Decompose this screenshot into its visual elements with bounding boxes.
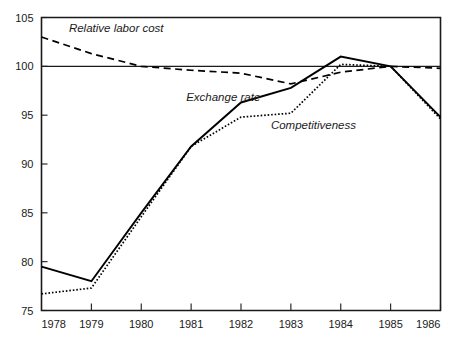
- x-axis-ticks: [91, 304, 440, 311]
- chart-page: 7580859095100105 19781979198019811982198…: [0, 0, 461, 341]
- y-tick-label: 75: [21, 305, 33, 317]
- x-tick-label: 1982: [229, 318, 253, 330]
- x-tick-label: 1981: [179, 318, 203, 330]
- y-axis-tick-labels: 7580859095100105: [15, 12, 33, 317]
- y-tick-label: 85: [21, 207, 33, 219]
- x-tick-label: 1980: [129, 318, 153, 330]
- x-axis-tick-labels: 197819791980198119821983198419851986: [42, 318, 441, 330]
- series-line-exchange-rate: [42, 57, 441, 282]
- x-tick-label: 1985: [378, 318, 402, 330]
- series-label-relative-labor-cost: Relative labor cost: [69, 22, 164, 34]
- x-tick-label: 1986: [416, 318, 440, 330]
- series-annotations: Relative labor costExchange rateCompetit…: [69, 22, 356, 131]
- line-chart: 7580859095100105 19781979198019811982198…: [0, 0, 461, 341]
- x-tick-label: 1984: [329, 318, 353, 330]
- x-tick-label: 1978: [42, 318, 66, 330]
- series-label-exchange-rate: Exchange rate: [186, 91, 260, 103]
- x-tick-label: 1983: [279, 318, 303, 330]
- y-tick-label: 100: [15, 60, 33, 72]
- x-tick-label: 1979: [79, 318, 103, 330]
- y-tick-label: 90: [21, 158, 33, 170]
- series-line-relative-labor-cost: [42, 37, 441, 84]
- y-tick-label: 95: [21, 109, 33, 121]
- series-lines: [42, 37, 441, 294]
- y-tick-label: 80: [21, 256, 33, 268]
- y-tick-label: 105: [15, 12, 33, 24]
- series-label-competitiveness: Competitiveness: [271, 119, 356, 131]
